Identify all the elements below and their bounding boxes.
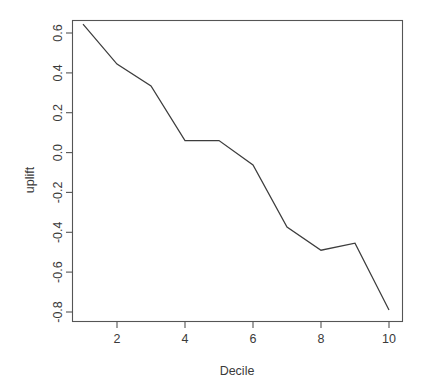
y-tick-label-3: 0.0 [51, 144, 65, 161]
x-tick-label-2: 6 [250, 332, 257, 346]
y-tick-label-4: -0.2 [51, 182, 65, 204]
y-tick-label-7: -0.8 [51, 301, 65, 323]
plot-root: 0.6 0.4 0.2 0.0 -0.2 -0.4 -0.6 -0.8 2 4 … [0, 0, 424, 392]
y-tick-label-5: -0.4 [51, 221, 65, 243]
x-tick-label-0: 2 [114, 332, 121, 346]
uplift-decile-line-chart: 0.6 0.4 0.2 0.0 -0.2 -0.4 -0.6 -0.8 2 4 … [0, 0, 424, 392]
x-tick-label-3: 8 [318, 332, 325, 346]
x-axis-title: Decile [220, 364, 255, 378]
y-tick-label-6: -0.6 [51, 261, 65, 283]
x-tick-label-4: 10 [382, 332, 396, 346]
y-axis-title: uplift [23, 166, 37, 193]
y-tick-label-0: 0.6 [51, 24, 65, 41]
y-tick-label-1: 0.4 [51, 64, 65, 81]
y-tick-label-2: 0.2 [51, 104, 65, 121]
x-tick-label-1: 4 [182, 332, 189, 346]
